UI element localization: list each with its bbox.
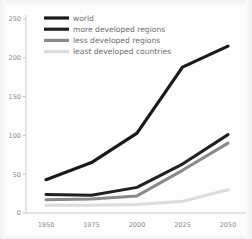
x-tick-label: 2050 <box>220 221 237 229</box>
series-lines <box>46 46 228 205</box>
legend-label-world: world <box>73 14 94 23</box>
chart-container: 050100150200250 19501975200020252050 wor… <box>0 0 252 239</box>
x-tick-label: 2025 <box>174 221 191 229</box>
line-chart-plot: 050100150200250 19501975200020252050 wor… <box>0 0 252 239</box>
y-tick-label: 150 <box>9 93 21 101</box>
y-axis-ticks: 050100150200250 <box>9 15 26 217</box>
x-axis-ticks: 19501975200020252050 <box>38 221 237 229</box>
legend-label-least-developed-countries: least developed countries <box>73 47 171 56</box>
series-line-least-developed-countries <box>46 190 228 206</box>
x-tick-label: 2000 <box>129 221 146 229</box>
legend-label-less-developed-regions: less developed regions <box>73 36 160 45</box>
x-tick-label: 1975 <box>83 221 100 229</box>
y-tick-label: 100 <box>9 132 21 140</box>
y-tick-label: 50 <box>13 171 21 179</box>
x-tick-label: 1950 <box>38 221 55 229</box>
series-line-more-developed-regions <box>46 135 228 196</box>
y-tick-label: 0 <box>17 209 21 217</box>
chart-legend: worldmore developed regionsless develope… <box>44 14 171 57</box>
y-tick-label: 250 <box>9 15 21 23</box>
legend-label-more-developed-regions: more developed regions <box>73 25 165 34</box>
y-tick-label: 200 <box>9 54 21 62</box>
